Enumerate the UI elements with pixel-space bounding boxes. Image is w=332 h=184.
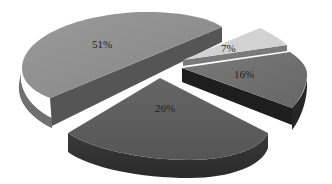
- label-26: 26%: [155, 102, 175, 114]
- label-7: 7%: [221, 42, 236, 54]
- label-16: 16%: [234, 68, 254, 80]
- label-51: 51%: [92, 38, 112, 50]
- pie-chart: 51% 7% 16% 26%: [0, 0, 332, 184]
